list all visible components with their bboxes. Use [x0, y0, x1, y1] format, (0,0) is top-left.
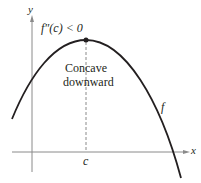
y-axis-label: y — [28, 4, 33, 15]
concavity-diagram: y f″(c) < 0 Concave downward f x c — [0, 0, 201, 183]
peak-point — [84, 38, 89, 43]
x-axis-arrow-icon — [183, 150, 190, 154]
annotation-downward: downward — [63, 76, 114, 88]
annotation-concave: Concave — [65, 62, 107, 74]
second-derivative-condition: f″(c) < 0 — [41, 22, 83, 34]
x-axis-label: x — [191, 145, 196, 156]
function-label: f — [161, 101, 164, 113]
y-axis-arrow-icon — [30, 15, 34, 22]
point-c-label: c — [83, 155, 88, 167]
diagram-graphics — [0, 0, 201, 183]
